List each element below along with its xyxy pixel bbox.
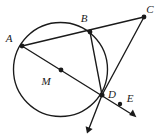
point-label-C: C: [146, 3, 154, 15]
point-dot-D: [100, 93, 105, 98]
point-dot-C: [142, 15, 147, 20]
point-label-B: B: [81, 12, 88, 24]
point-dot-M: [59, 68, 64, 73]
geometry-diagram: A B C D E M: [0, 0, 161, 137]
point-dot-E: [118, 102, 122, 106]
chord-line-B-D: [90, 32, 102, 95]
ray-line-A-M-D-E: [22, 46, 133, 115]
point-label-D: D: [107, 88, 116, 100]
geometry-canvas: A B C D E M: [0, 0, 161, 137]
point-dot-A: [20, 44, 25, 49]
point-label-M: M: [40, 75, 51, 87]
point-label-A: A: [5, 32, 13, 44]
point-label-E: E: [126, 92, 134, 104]
segment-line-C-D: [102, 17, 144, 95]
point-dot-B: [88, 30, 93, 35]
